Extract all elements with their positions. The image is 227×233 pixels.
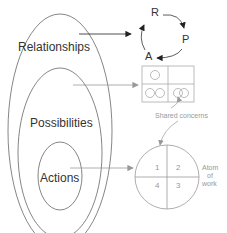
atom-quadrant-1: 1 [155, 163, 159, 172]
relationships-label: Relationships [18, 40, 90, 54]
possibilities-label: Possibilities [30, 116, 93, 130]
grid-circle [180, 89, 189, 98]
grid-circle [146, 89, 155, 98]
cycle-arc-p-a [157, 49, 182, 58]
shared-concerns-pointer-up [171, 97, 178, 108]
possibilities-ellipse [18, 68, 102, 233]
shared-concerns-pointer-down [160, 121, 178, 145]
atom-quadrant-2: 2 [176, 163, 180, 172]
grid-circle [156, 89, 165, 98]
cycle-node-a: A [145, 50, 152, 62]
atom-quadrant-3: 3 [176, 181, 180, 190]
atom-label-line3: work [202, 180, 217, 187]
grid-circle [151, 71, 160, 80]
shared-concerns-label: Shared concerns [155, 112, 208, 119]
cycle-arc-a-r [141, 25, 145, 50]
actions-label: Actions [40, 171, 79, 185]
cycle-arc-r-p [163, 15, 184, 28]
atom-label-line1: Atom [202, 164, 218, 171]
cycle-node-r: R [151, 6, 159, 18]
atom-quadrant-4: 4 [155, 181, 159, 190]
atom-label-line2: of [207, 172, 213, 179]
cycle-node-p: P [182, 33, 189, 45]
